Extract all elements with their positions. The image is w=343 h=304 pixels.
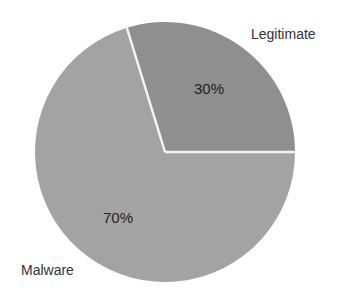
pct-legitimate: 30% — [194, 80, 224, 97]
label-legitimate: Legitimate — [251, 26, 316, 42]
pie-chart — [0, 0, 343, 304]
label-malware: Malware — [21, 262, 74, 278]
pct-malware: 70% — [103, 209, 133, 226]
